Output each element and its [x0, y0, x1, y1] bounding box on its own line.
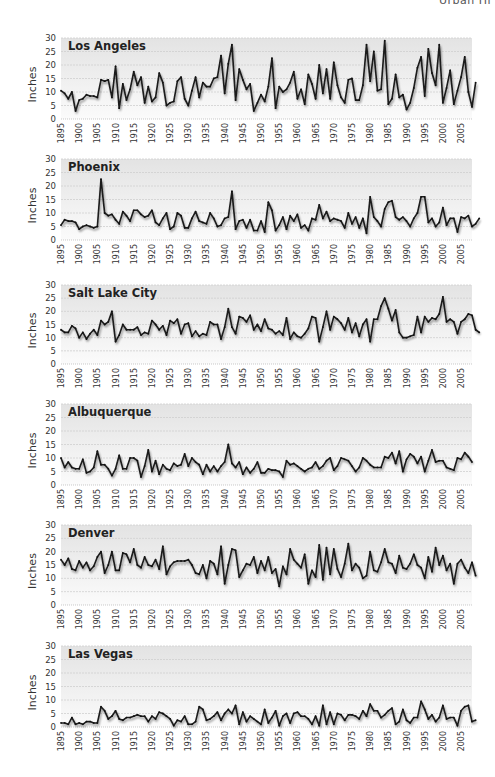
data-point	[337, 84, 339, 86]
data-point	[293, 220, 295, 222]
data-point	[107, 215, 109, 217]
x-tick-label: 2005	[457, 489, 466, 509]
data-point	[104, 710, 106, 712]
data-point	[380, 467, 382, 469]
data-point	[75, 468, 77, 470]
data-point	[391, 98, 393, 100]
x-tick-label: 1910	[112, 244, 121, 264]
data-point	[209, 212, 211, 214]
data-point	[151, 715, 153, 717]
data-point	[329, 457, 331, 459]
data-point	[337, 318, 339, 320]
data-point	[369, 464, 371, 466]
data-point	[362, 710, 364, 712]
data-point	[351, 569, 353, 571]
x-tick-label: 1975	[348, 368, 357, 388]
data-point	[202, 473, 204, 475]
data-point	[86, 561, 88, 563]
data-point	[453, 103, 455, 105]
data-point	[322, 705, 324, 707]
data-point	[67, 98, 69, 100]
data-point	[209, 321, 211, 323]
data-point	[246, 227, 248, 229]
x-tick-label: 1925	[166, 731, 175, 751]
data-point	[231, 548, 233, 550]
data-point	[93, 467, 95, 469]
data-point	[136, 714, 138, 716]
data-point	[111, 97, 113, 99]
x-tick-label: 1950	[257, 123, 266, 143]
data-point	[275, 107, 277, 109]
y-tick-label: 25	[45, 168, 56, 178]
x-tick-label: 1970	[330, 123, 339, 143]
data-point	[100, 706, 102, 708]
data-point	[249, 314, 251, 316]
data-point	[224, 713, 226, 715]
x-tick-label: 1990	[403, 123, 412, 143]
data-point	[409, 563, 411, 565]
data-point	[329, 98, 331, 100]
x-tick-label: 1990	[403, 368, 412, 388]
data-point	[151, 320, 153, 322]
data-point	[267, 328, 269, 330]
data-point	[460, 458, 462, 460]
data-point	[446, 569, 448, 571]
x-tick-label: 1990	[403, 244, 412, 264]
data-point	[162, 325, 164, 327]
y-tick-label: 25	[45, 655, 56, 665]
data-point	[198, 706, 200, 708]
data-point	[431, 317, 433, 319]
data-point	[358, 99, 360, 101]
x-tick-label: 1895	[57, 368, 66, 388]
data-point	[333, 469, 335, 471]
data-point	[227, 709, 229, 711]
data-point	[176, 318, 178, 320]
x-tick-label: 2005	[457, 123, 466, 143]
data-point	[275, 333, 277, 335]
data-point	[166, 212, 168, 214]
data-point	[180, 721, 182, 723]
data-point	[133, 71, 135, 73]
data-point	[184, 560, 186, 562]
data-point	[358, 227, 360, 229]
x-tick-label: 1950	[257, 609, 266, 629]
data-point	[420, 700, 422, 702]
data-point	[289, 548, 291, 550]
data-point	[238, 68, 240, 70]
x-tick-label: 1965	[312, 609, 321, 629]
data-point	[60, 559, 62, 561]
data-point	[60, 90, 62, 92]
data-point	[217, 226, 219, 228]
data-point	[446, 321, 448, 323]
x-tick-label: 1940	[221, 244, 230, 264]
y-tick-label: 20	[45, 426, 56, 436]
data-point	[293, 463, 295, 465]
y-tick-label: 0	[51, 114, 56, 124]
data-point	[231, 713, 233, 715]
data-point	[311, 316, 313, 318]
data-point	[337, 219, 339, 221]
x-tick-label: 1935	[202, 244, 211, 264]
data-point	[82, 226, 84, 228]
data-point	[227, 564, 229, 566]
x-tick-label: 1985	[384, 609, 393, 629]
x-tick-label: 1960	[293, 609, 302, 629]
x-tick-label: 1965	[312, 731, 321, 751]
data-point	[191, 218, 193, 220]
data-point	[340, 322, 342, 324]
data-point	[224, 92, 226, 94]
data-point	[278, 471, 280, 473]
data-point	[460, 559, 462, 561]
y-tick-label: 10	[45, 573, 56, 583]
data-point	[282, 565, 284, 567]
data-point	[449, 318, 451, 320]
data-point	[387, 710, 389, 712]
x-tick-label: 2000	[439, 609, 448, 629]
data-point	[155, 97, 157, 99]
data-point	[326, 460, 328, 462]
data-point	[202, 82, 204, 84]
data-point	[315, 576, 317, 578]
y-tick-label: 5	[51, 222, 56, 232]
data-point	[460, 321, 462, 323]
chart-panel-phoenix: 0510152025301895190019051910191519201925…	[26, 154, 480, 264]
